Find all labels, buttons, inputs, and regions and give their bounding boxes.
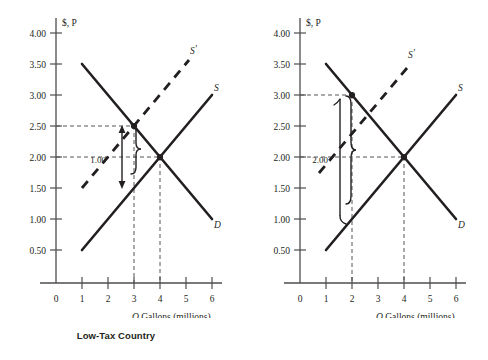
x-tick-label-3: 3 [376, 294, 381, 304]
supply-label: S [458, 83, 463, 93]
x-tick-label-1: 1 [80, 294, 85, 304]
supply-label: S [214, 83, 219, 93]
demand-label: D [213, 220, 221, 230]
demand-curve [82, 64, 212, 219]
supply-with-tax-label: S' [190, 44, 198, 56]
chart-panel-high-tax: 0.50 1.00 1.50 2.00 2.50 3.00 3.50 4.00 … [244, 0, 488, 330]
y-tick-label-7: 4.00 [273, 29, 290, 39]
supply-curve [326, 95, 456, 250]
tax-arrow-head-up [334, 99, 340, 105]
cut-off-footer-line [0, 352, 488, 360]
x-tick-label-6: 6 [454, 294, 459, 304]
equilibrium-pre-tax-dot [401, 154, 407, 160]
y-tick-label-3: 2.00 [29, 153, 46, 163]
tax-amount-label: 2.00 [312, 155, 328, 165]
x-axis-title: Q Gallons (millions) [132, 312, 211, 318]
y-tick-label-4: 2.50 [273, 122, 290, 132]
y-tick-label-7: 4.00 [29, 29, 46, 39]
supply-curve [82, 95, 212, 250]
tax-amount-label: 1.00 [90, 155, 106, 165]
y-tick-label-2: 1.50 [273, 184, 290, 194]
x-tick-label-6: 6 [210, 294, 215, 304]
y-tick-label-5: 3.00 [273, 91, 290, 101]
x-tick-label-2: 2 [106, 294, 111, 304]
y-tick-label-0: 0.50 [29, 246, 46, 256]
y-tick-label-4: 2.50 [29, 122, 46, 132]
x-tick-label-4: 4 [402, 294, 407, 304]
tax-wedge-annotation: 2.00 [312, 96, 356, 224]
x-tick-label-0: 0 [298, 294, 303, 304]
x-tick-label-5: 5 [184, 294, 189, 304]
supply-with-tax-label-prime: ' [195, 44, 198, 54]
x-tick-label-1: 1 [324, 294, 329, 304]
y-tick-label-5: 3.00 [29, 91, 46, 101]
economics-figure: 0.50 1.00 1.50 2.00 2.50 3.00 3.50 4.00 … [0, 0, 488, 360]
chart-panel-low-tax: 0.50 1.00 1.50 2.00 2.50 3.00 3.50 4.00 … [0, 0, 244, 330]
x-tick-label-2: 2 [350, 294, 355, 304]
tax-brace [346, 96, 356, 204]
x-tick-label-5: 5 [428, 294, 433, 304]
high-tax-plot: 0.50 1.00 1.50 2.00 2.50 3.00 3.50 4.00 … [244, 0, 488, 318]
tax-arrow-head-down [119, 181, 126, 189]
y-tick-label-6: 3.50 [29, 60, 46, 70]
y-tick-label-1: 1.00 [273, 215, 290, 225]
tax-arrow-head-down [340, 216, 346, 224]
y-axis-title: $, P [62, 18, 77, 28]
x-tick-label-0: 0 [54, 294, 59, 304]
y-tick-label-1: 1.00 [29, 215, 46, 225]
y-tick-label-2: 1.50 [29, 184, 46, 194]
supply-with-tax-label: S' [408, 48, 416, 60]
x-axis-title-rest: Gallons (millions) [139, 312, 211, 318]
demand-curve [326, 64, 456, 219]
panel-caption-high-tax: High-Tax Country [482, 330, 488, 341]
x-tick-label-4: 4 [158, 294, 163, 304]
supply-with-tax-label-prime: ' [413, 48, 416, 58]
y-tick-label-0: 0.50 [273, 246, 290, 256]
low-tax-plot: 0.50 1.00 1.50 2.00 2.50 3.00 3.50 4.00 … [0, 0, 244, 318]
x-axis-title: Q Gallons (millions) [376, 312, 455, 318]
y-tick-label-6: 3.50 [273, 60, 290, 70]
demand-label: D [457, 220, 465, 230]
x-tick-label-3: 3 [132, 294, 137, 304]
y-axis-title: $, P [306, 18, 321, 28]
panel-caption-low-tax: Low-Tax Country [0, 330, 238, 341]
y-tick-label-3: 2.00 [273, 153, 290, 163]
x-axis-title-rest: Gallons (millions) [383, 312, 455, 318]
equilibrium-pre-tax-dot [157, 154, 163, 160]
